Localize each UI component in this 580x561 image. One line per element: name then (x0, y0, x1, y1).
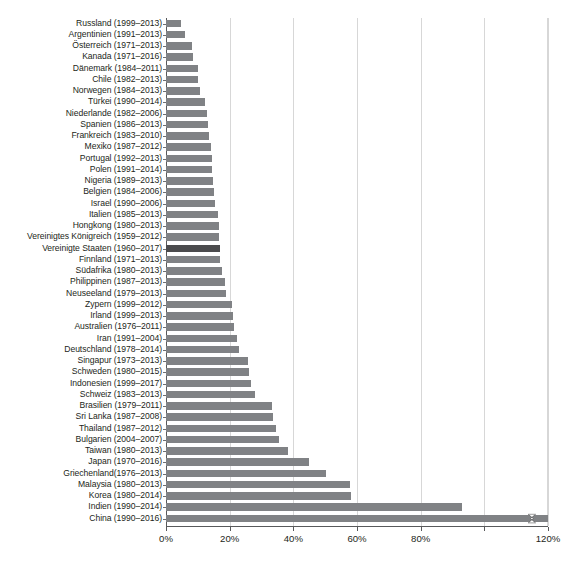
category-label: Japan (1970–2016) (0, 456, 162, 467)
bar-row (166, 221, 548, 232)
category-label: Deutschland (1978–2014) (0, 344, 162, 355)
category-label: Indien (1990–2014) (0, 501, 162, 512)
x-tick (548, 527, 549, 531)
bar-row (166, 86, 548, 97)
category-label: Finnland (1971–2013) (0, 254, 162, 265)
category-label: Vereinigte Staaten (1960–2017) (0, 243, 162, 254)
bar-row (166, 176, 548, 187)
bar (166, 425, 276, 433)
bar (166, 233, 219, 241)
category-tick (163, 282, 166, 283)
category-label: Belgien (1984–2006) (0, 186, 162, 197)
x-tick (230, 527, 231, 531)
plot-area (166, 18, 548, 526)
bar-row (166, 209, 548, 220)
category-tick (163, 57, 166, 58)
bar-chart: Russland (1999–2013)Argentinien (1991–20… (0, 0, 580, 561)
bar (166, 20, 181, 28)
category-tick (163, 215, 166, 216)
category-tick (163, 181, 166, 182)
bar (166, 402, 272, 410)
category-tick (163, 361, 166, 362)
bar (166, 481, 350, 489)
category-tick (163, 69, 166, 70)
category-tick (163, 496, 166, 497)
category-label: Österreich (1971–2013) (0, 40, 162, 51)
bar (166, 413, 273, 421)
bar-row (166, 97, 548, 108)
bar-row (166, 378, 548, 389)
category-label: Spanien (1986–2013) (0, 119, 162, 130)
bar-row (166, 423, 548, 434)
category-tick (163, 204, 166, 205)
category-tick (163, 350, 166, 351)
category-label: Schweiz (1983–2013) (0, 389, 162, 400)
bar-row (166, 389, 548, 400)
bar-row (166, 18, 548, 29)
bar-row (166, 266, 548, 277)
category-tick (163, 474, 166, 475)
category-label: Kanada (1971–2016) (0, 51, 162, 62)
category-tick (163, 294, 166, 295)
bar (166, 503, 462, 511)
category-tick (163, 384, 166, 385)
category-label: Polen (1991–2014) (0, 164, 162, 175)
bar (166, 177, 213, 185)
category-tick (163, 440, 166, 441)
bar-row (166, 434, 548, 445)
category-label: Nigeria (1989–2013) (0, 175, 162, 186)
bar (166, 42, 192, 50)
bar-row (166, 502, 548, 513)
bar-row (166, 254, 548, 265)
gridline (548, 18, 549, 526)
category-tick (163, 147, 166, 148)
x-tick (166, 527, 167, 531)
bar (166, 143, 211, 151)
category-label: Sri Lanka (1987–2008) (0, 411, 162, 422)
category-label: Chile (1982–2013) (0, 74, 162, 85)
x-tick (421, 527, 422, 531)
bar-row (166, 288, 548, 299)
bar-row (166, 311, 548, 322)
bar (166, 222, 219, 230)
bar-row (166, 491, 548, 502)
category-tick (163, 271, 166, 272)
category-tick (163, 395, 166, 396)
bar (166, 155, 212, 163)
bar (166, 166, 212, 174)
category-tick (163, 24, 166, 25)
bar-rows (166, 18, 548, 526)
bar (166, 31, 185, 39)
x-tick (357, 527, 358, 531)
category-label: Griechenland(1976–2013) (0, 468, 162, 479)
bar-row (166, 153, 548, 164)
category-label: Argentinien (1991–2013) (0, 29, 162, 40)
bar (166, 447, 288, 455)
bar-row (166, 333, 548, 344)
bar (166, 436, 279, 444)
category-label: Portugal (1992–2013) (0, 153, 162, 164)
bar-row (166, 457, 548, 468)
bar-row (166, 108, 548, 119)
bar-row (166, 299, 548, 310)
x-tick-label: 20% (220, 533, 239, 545)
category-label: Bulgarien (2004–2007) (0, 434, 162, 445)
category-tick (163, 339, 166, 340)
category-label: Türkei (1990–2014) (0, 96, 162, 107)
category-label: Singapur (1973–2013) (0, 355, 162, 366)
category-label: Italien (1985–2013) (0, 209, 162, 220)
category-tick (163, 519, 166, 520)
category-tick (163, 114, 166, 115)
category-tick (163, 159, 166, 160)
bar (166, 65, 198, 73)
category-tick (163, 507, 166, 508)
category-label: Australien (1976–2011) (0, 321, 162, 332)
bar-row (166, 401, 548, 412)
bar-row (166, 41, 548, 52)
bar (166, 256, 220, 264)
bar-row (166, 198, 548, 209)
bar-row (166, 29, 548, 40)
bar (166, 335, 237, 343)
bar-row (166, 52, 548, 63)
x-tick (293, 527, 294, 531)
